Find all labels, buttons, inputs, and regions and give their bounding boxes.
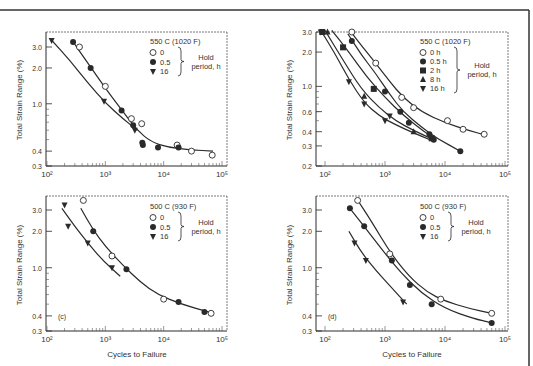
data-point xyxy=(429,135,435,141)
data-point xyxy=(102,83,108,89)
x-axis-label-left: Cycles to Failure xyxy=(107,350,167,359)
panel-label: (d) xyxy=(328,313,337,321)
data-point xyxy=(109,253,115,259)
y-tick-label: 0.3 xyxy=(302,328,312,335)
y-tick-label: 0.3 xyxy=(32,328,42,335)
data-point xyxy=(208,310,214,316)
panel-b: 10²10³10⁴10⁵3.02.01.00.60.40.30.2550 C (… xyxy=(302,29,511,180)
legend-entry: 8 h xyxy=(430,75,440,84)
y-tick-label: 3.0 xyxy=(302,29,312,36)
data-point xyxy=(349,29,355,35)
open-circle-marker-icon xyxy=(420,215,426,221)
figure-container: 10²10³10⁴10⁵3.02.01.00.40.3550 C (1020 F… xyxy=(0,0,533,366)
y-axis-label-left: Total Strain Range (%) xyxy=(15,59,24,140)
fit-curve xyxy=(72,41,213,152)
data-point xyxy=(355,197,361,203)
fit-curve xyxy=(350,30,487,135)
legend-entry: 0 xyxy=(430,213,434,222)
legend-entry: 0 h xyxy=(430,48,440,57)
triangle-down-marker-icon xyxy=(420,86,426,92)
legend-brace xyxy=(454,47,460,93)
panel-title: 500 C (930 F) xyxy=(420,202,467,211)
y-tick-label: 0.4 xyxy=(302,129,312,136)
data-point xyxy=(76,44,82,50)
legend-period-label: period, h xyxy=(461,227,490,236)
data-point xyxy=(176,299,182,305)
data-point xyxy=(70,39,76,45)
triangle-down-marker-icon xyxy=(420,234,426,240)
x-tick-label: 10⁴ xyxy=(157,170,170,179)
data-point xyxy=(489,310,495,316)
x-tick-label: 10⁵ xyxy=(499,170,511,179)
data-point xyxy=(407,282,413,288)
open-circle-marker-icon xyxy=(420,50,426,56)
x-tick-label: 10³ xyxy=(100,170,112,179)
data-point xyxy=(209,152,215,158)
data-point xyxy=(361,223,367,229)
legend-brace xyxy=(448,212,454,241)
data-point xyxy=(438,296,444,302)
y-tick-label: 2.0 xyxy=(302,228,312,235)
panel-title: 500 C (930 F) xyxy=(150,202,197,211)
y-tick-label: 1.0 xyxy=(302,83,312,90)
y-tick-label: 1.0 xyxy=(32,101,42,108)
circle-marker-icon xyxy=(420,59,426,65)
legend-period-label: period, h xyxy=(191,227,220,236)
y-tick-label: 2.0 xyxy=(302,49,312,56)
legend-entry: 16 xyxy=(430,232,438,241)
legend-entry: 0.5 xyxy=(160,223,170,232)
data-point xyxy=(201,309,207,315)
legend-entry: 16 h xyxy=(430,84,445,93)
data-point xyxy=(429,301,435,307)
x-tick-label: 10² xyxy=(319,170,331,179)
legend-period-label: period, h xyxy=(191,62,220,71)
data-point xyxy=(457,148,463,154)
open-circle-marker-icon xyxy=(150,50,156,56)
panel-label: (c) xyxy=(58,313,66,321)
data-point xyxy=(444,118,450,124)
legend-hold-label: Hold xyxy=(468,218,483,227)
y-axis-label-right-bottom: Total Strain Range (%) xyxy=(285,224,294,305)
panel-title: 550 C (1020 F) xyxy=(150,37,201,46)
x-tick-label: 10² xyxy=(41,170,53,179)
data-point xyxy=(373,60,379,66)
legend-hold-label: Hold xyxy=(198,53,213,62)
y-tick-label: 0.3 xyxy=(302,143,312,150)
x-tick-label: 10³ xyxy=(100,335,112,344)
legend-entry: 16 xyxy=(160,232,168,241)
y-tick-label: 0.4 xyxy=(32,148,42,155)
fit-curve xyxy=(321,30,434,141)
x-tick-label: 10⁴ xyxy=(439,170,452,179)
fit-curve xyxy=(349,231,407,304)
data-point xyxy=(406,120,412,126)
x-tick-label: 10² xyxy=(319,335,331,344)
panel-d: 10²10³10⁴10⁵3.02.01.00.40.3500 C (930 F)… xyxy=(302,196,511,344)
y-tick-label: 2.0 xyxy=(32,228,42,235)
y-tick-label: 2.0 xyxy=(32,65,42,72)
y-axis-label-right: Total Strain Range (%) xyxy=(285,59,294,140)
legend-hold-label: Hold xyxy=(474,61,489,70)
panel-c: 10²10³10⁴10⁵3.02.01.00.40.3500 C (930 F)… xyxy=(32,196,228,344)
data-point xyxy=(387,251,393,257)
fit-curve xyxy=(51,39,138,130)
data-point xyxy=(382,118,388,124)
legend-entry: 0.5 xyxy=(160,58,170,67)
y-tick-label: 1.0 xyxy=(302,265,312,272)
circle-marker-icon xyxy=(150,59,156,65)
x-tick-label: 10⁵ xyxy=(499,335,511,344)
square-marker-icon xyxy=(420,68,426,74)
x-tick-label: 10⁵ xyxy=(216,170,228,179)
x-tick-label: 10⁴ xyxy=(439,335,452,344)
data-point xyxy=(62,202,68,208)
x-tick-label: 10³ xyxy=(379,170,391,179)
legend-brace xyxy=(178,212,184,241)
data-point xyxy=(161,296,167,302)
data-point xyxy=(123,266,129,272)
data-point xyxy=(188,148,194,154)
data-point xyxy=(140,142,146,148)
x-axis-label-right: Cycles to Failure xyxy=(382,350,442,359)
x-tick-label: 10⁴ xyxy=(157,335,170,344)
data-point xyxy=(340,44,346,50)
data-point xyxy=(176,144,182,150)
y-tick-label: 0.6 xyxy=(302,109,312,116)
